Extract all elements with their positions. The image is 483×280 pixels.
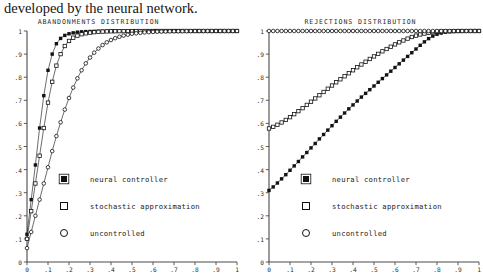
legend-item-uncontrolled: uncontrolled (58, 227, 145, 239)
chart-panel-rejections: REJECTIONS DISTRIBUTION 0.1.2.3.4.5.6.7.… (242, 16, 483, 280)
x-axis-tick-label: .6 (391, 266, 398, 273)
open-circle-icon (300, 227, 312, 239)
x-axis-tick-label: .3 (86, 266, 93, 273)
legend-item-neural-controller: neural controller (58, 173, 168, 185)
chart-title-rejections: REJECTIONS DISTRIBUTION (240, 18, 481, 26)
y-axis-tick-label: .2 (15, 212, 22, 219)
legend-label: stochastic approximation (90, 202, 200, 211)
x-axis-tick-label: 0 (25, 266, 29, 273)
x-axis-tick-label: .1 (44, 266, 51, 273)
x-axis-tick-label: .2 (307, 266, 314, 273)
y-axis-tick-label: 1 (18, 28, 22, 35)
y-axis-tick-label: .9 (257, 51, 264, 58)
y-axis-tick-label: .4 (15, 166, 22, 173)
open-circle-icon (58, 227, 70, 239)
x-axis-tick-label: .4 (107, 266, 114, 273)
y-axis-tick-label: .8 (15, 74, 22, 81)
y-axis-tick-label: .1 (15, 235, 22, 242)
open-square-icon (58, 200, 70, 212)
y-axis-tick-label: .6 (15, 120, 22, 127)
x-axis-tick-label: .9 (454, 266, 461, 273)
legend-label: uncontrolled (332, 229, 387, 238)
y-axis-tick-label: .1 (257, 235, 264, 242)
x-axis-tick-label: .1 (286, 266, 293, 273)
legend-abandonments: neural controller stochastic approximati… (58, 171, 238, 247)
series-uncontrolled (267, 29, 481, 33)
legend-label: neural controller (90, 175, 168, 184)
y-axis-tick-label: .8 (257, 74, 264, 81)
y-axis-tick-label: .5 (257, 143, 264, 150)
y-axis-tick-label: .9 (15, 51, 22, 58)
y-axis-tick-label: .2 (257, 212, 264, 219)
x-axis-tick-label: .7 (170, 266, 177, 273)
x-axis-tick-label: .8 (191, 266, 198, 273)
series-stochastic-approximation (267, 29, 480, 130)
chart-title-abandonments: ABANDONMENTS DISTRIBUTION (0, 18, 219, 26)
y-axis-tick-label: 0 (260, 259, 264, 266)
filled-square-icon (58, 173, 70, 185)
legend-label: stochastic approximation (332, 202, 442, 211)
x-axis-tick-label: 0 (267, 266, 271, 273)
chart-panel-abandonments: ABANDONMENTS DISTRIBUTION 0.1.2.3.4.5.6.… (0, 16, 241, 280)
x-axis-tick-label: .4 (349, 266, 356, 273)
x-axis-tick-label: 1 (235, 266, 239, 273)
figure-pair: ABANDONMENTS DISTRIBUTION 0.1.2.3.4.5.6.… (0, 16, 483, 280)
x-axis-tick-label: .9 (212, 266, 219, 273)
y-axis-tick-label: .7 (15, 97, 22, 104)
y-axis-tick-label: .3 (15, 189, 22, 196)
legend-item-neural-controller: neural controller (300, 173, 410, 185)
legend-label: neural controller (332, 175, 410, 184)
y-axis-tick-label: .4 (257, 166, 264, 173)
x-axis-tick-label: .3 (328, 266, 335, 273)
legend-label: uncontrolled (90, 229, 145, 238)
legend-item-stochastic-approximation: stochastic approximation (300, 200, 442, 212)
legend-item-uncontrolled: uncontrolled (300, 227, 387, 239)
x-axis-tick-label: .8 (433, 266, 440, 273)
x-axis-tick-label: .2 (65, 266, 72, 273)
y-axis-tick-label: .3 (257, 189, 264, 196)
y-axis-tick-label: 1 (260, 28, 264, 35)
y-axis-tick-label: .7 (257, 97, 264, 104)
legend-rejections: neural controller stochastic approximati… (300, 171, 480, 247)
caption-text: developed by the neural network. (4, 0, 198, 16)
y-axis-tick-label: 0 (18, 259, 22, 266)
open-square-icon (300, 200, 312, 212)
y-axis-tick-label: .6 (257, 120, 264, 127)
x-axis-tick-label: .6 (149, 266, 156, 273)
y-axis-tick-label: .5 (15, 143, 22, 150)
x-axis-tick-label: 1 (477, 266, 481, 273)
figure-page: developed by the neural network. ABANDON… (0, 0, 483, 280)
x-axis-tick-label: .5 (128, 266, 135, 273)
legend-item-stochastic-approximation: stochastic approximation (58, 200, 200, 212)
x-axis-tick-label: .7 (412, 266, 419, 273)
filled-square-icon (300, 173, 312, 185)
x-axis-tick-label: .5 (370, 266, 377, 273)
